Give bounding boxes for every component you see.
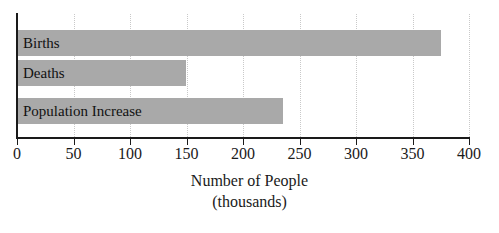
x-tick-label: 200	[231, 146, 255, 162]
x-tick-label: 400	[457, 146, 481, 162]
bar-population-increase: Population Increase	[17, 98, 283, 124]
plot-area: Births Deaths Population Increase	[17, 14, 469, 137]
bar-deaths: Deaths	[17, 60, 186, 86]
x-tick-label: 0	[13, 146, 21, 162]
bar-label-births: Births	[23, 36, 60, 51]
bar-label-deaths: Deaths	[23, 66, 65, 81]
bar-chart: Births Deaths Population Increase 0 50 1…	[0, 0, 499, 233]
x-tick-label: 100	[118, 146, 142, 162]
x-tick-label: 150	[175, 146, 199, 162]
x-tick-label: 50	[66, 146, 82, 162]
x-tick-label: 250	[288, 146, 312, 162]
gridline	[469, 14, 471, 137]
bar-births: Births	[17, 30, 441, 56]
x-axis-title: Number of People (thousands)	[0, 170, 499, 212]
y-axis-line	[16, 13, 18, 138]
x-axis-title-line1: Number of People	[0, 170, 499, 191]
x-tick-label: 350	[401, 146, 425, 162]
x-axis-title-line2: (thousands)	[0, 191, 499, 212]
bar-label-population-increase: Population Increase	[23, 104, 142, 119]
x-tick-label: 300	[344, 146, 368, 162]
